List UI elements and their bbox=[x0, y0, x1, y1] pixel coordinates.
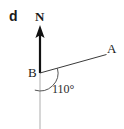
north-label: N bbox=[35, 10, 44, 23]
point-a-label: A bbox=[107, 42, 116, 55]
vertex-b-label: B bbox=[28, 66, 37, 79]
part-label: d bbox=[9, 9, 18, 23]
angle-measure-label: 110° bbox=[52, 83, 74, 95]
ray-b-to-a bbox=[40, 55, 107, 74]
diagram-canvas bbox=[0, 0, 124, 129]
bearing-diagram: d N B A 110° bbox=[0, 0, 124, 129]
